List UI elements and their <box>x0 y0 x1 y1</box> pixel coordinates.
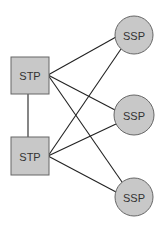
ssp-label: SSP <box>123 110 145 122</box>
ssp-label: SSP <box>123 192 145 204</box>
link-stp1-ssp2 <box>48 75 115 110</box>
ss7-network-diagram: STP STP SSP SSP SSP <box>0 0 164 230</box>
ssp-label: SSP <box>123 30 145 42</box>
stp-node-1: STP <box>11 57 49 94</box>
link-stp2-ssp2 <box>48 124 116 156</box>
stp-label: STP <box>19 151 40 163</box>
ssp-node-2: SSP <box>114 95 154 135</box>
link-stp2-ssp3 <box>48 156 116 192</box>
ssp-node-1: SSP <box>115 16 153 54</box>
link-stp2-ssp1 <box>48 49 121 156</box>
ssp-node-3: SSP <box>115 178 153 216</box>
stp-label: STP <box>19 70 40 82</box>
stp-node-2: STP <box>11 137 49 175</box>
link-stp1-ssp1 <box>48 37 116 75</box>
link-stp1-ssp3 <box>48 75 122 182</box>
